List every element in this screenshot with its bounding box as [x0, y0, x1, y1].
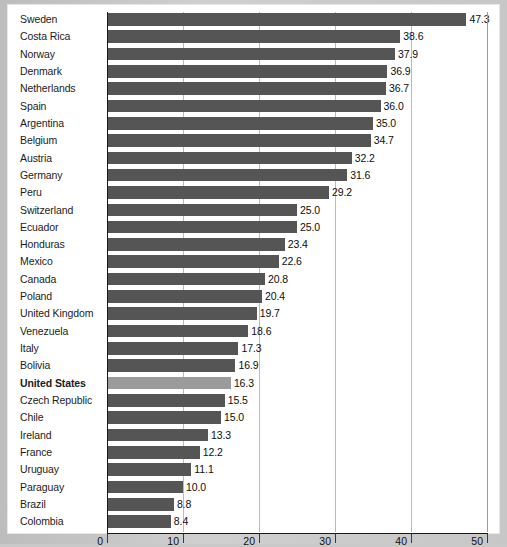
bar-row: Argentina35.0 [8, 116, 499, 133]
bar [107, 463, 191, 476]
bar-value-label: 37.9 [398, 48, 418, 61]
bar [107, 498, 174, 511]
bar-value-label: 8.4 [174, 515, 188, 528]
bar [107, 342, 238, 355]
category-label: Netherlands [20, 82, 105, 95]
category-label: Ireland [20, 429, 105, 442]
bar-value-label: 32.2 [355, 152, 375, 165]
x-axis-tick-label: 50 [445, 535, 483, 547]
category-label: Argentina [20, 117, 105, 130]
category-label: Chile [20, 411, 105, 424]
category-label: Bolivia [20, 359, 105, 372]
x-axis-tick [107, 534, 108, 543]
category-label: Ecuador [20, 221, 105, 234]
category-label: Czech Republic [20, 394, 105, 407]
y-axis-line [107, 12, 108, 534]
bar [107, 394, 225, 407]
bar [107, 515, 171, 528]
bar-row: Denmark36.9 [8, 64, 499, 81]
bar-value-label: 25.0 [300, 204, 320, 217]
bar [107, 204, 297, 217]
category-label: Switzerland [20, 204, 105, 217]
bar-value-label: 13.3 [211, 429, 231, 442]
bar-row: Czech Republic15.5 [8, 393, 499, 410]
bar-value-label: 16.9 [238, 359, 258, 372]
bar-value-label: 15.0 [224, 411, 244, 424]
bar [107, 117, 373, 130]
x-axis-tick-label: 0 [65, 535, 103, 547]
bar-row: Ireland13.3 [8, 428, 499, 445]
category-label: Poland [20, 290, 105, 303]
category-label: Germany [20, 169, 105, 182]
bar-value-label: 10.0 [186, 481, 206, 494]
bar-row: Honduras23.4 [8, 237, 499, 254]
bar-row: France12.2 [8, 445, 499, 462]
bar-value-label: 18.6 [251, 325, 271, 338]
bar [107, 325, 248, 338]
bar-value-label: 15.5 [228, 394, 248, 407]
bar-value-label: 36.7 [389, 82, 409, 95]
bar [107, 186, 329, 199]
category-label: Uruguay [20, 463, 105, 476]
bar-value-label: 12.2 [203, 446, 223, 459]
x-axis-tick [335, 534, 336, 543]
bar-value-label: 20.8 [268, 273, 288, 286]
x-axis-tick [259, 534, 260, 543]
bar-value-label: 16.3 [234, 377, 254, 390]
bar [107, 377, 231, 390]
bar-row: Netherlands36.7 [8, 81, 499, 98]
bar-value-label: 38.6 [403, 30, 423, 43]
bar-chart: Sweden47.3Costa Rica38.6Norway37.9Denmar… [8, 5, 499, 533]
bar-row: United Kingdom19.7 [8, 306, 499, 323]
bar-row: Norway37.9 [8, 47, 499, 64]
bar-value-label: 36.0 [384, 100, 404, 113]
category-label: Paraguay [20, 481, 105, 494]
category-label: United States [20, 377, 105, 390]
bar-row: Switzerland25.0 [8, 203, 499, 220]
bar-row: Uruguay11.1 [8, 462, 499, 479]
bar [107, 100, 381, 113]
bar-value-label: 22.6 [282, 255, 302, 268]
category-label: Canada [20, 273, 105, 286]
bar [107, 307, 257, 320]
bar-row: Poland20.4 [8, 289, 499, 306]
bar [107, 134, 371, 147]
bar-value-label: 25.0 [300, 221, 320, 234]
bar-value-label: 34.7 [374, 134, 394, 147]
bar-value-label: 35.0 [376, 117, 396, 130]
category-label: Sweden [20, 13, 105, 26]
category-label: Belgium [20, 134, 105, 147]
category-label: Colombia [20, 515, 105, 528]
category-label: Norway [20, 48, 105, 61]
category-label: Peru [20, 186, 105, 199]
bar-value-label: 11.1 [194, 463, 213, 476]
bar-row: Bolivia16.9 [8, 358, 499, 375]
bar-row: Austria32.2 [8, 151, 499, 168]
bar-value-label: 17.3 [241, 342, 261, 355]
bar-row: Costa Rica38.6 [8, 29, 499, 46]
bar-row: Peru29.2 [8, 185, 499, 202]
bar [107, 255, 279, 268]
bar-row: Brazil8.8 [8, 497, 499, 514]
x-axis-tick-label: 10 [141, 535, 179, 547]
bar-row: Canada20.8 [8, 272, 499, 289]
bar-row: Venezuela18.6 [8, 324, 499, 341]
bar [107, 273, 265, 286]
bar [107, 411, 221, 424]
bar [107, 359, 235, 372]
bar [107, 152, 352, 165]
bar-value-label: 29.2 [332, 186, 352, 199]
bar-value-label: 19.7 [260, 307, 280, 320]
bar [107, 65, 387, 78]
bar [107, 82, 386, 95]
bar [107, 429, 208, 442]
category-label: Mexico [20, 255, 105, 268]
bar [107, 238, 285, 251]
bar [107, 169, 347, 182]
bar-row: Italy17.3 [8, 341, 499, 358]
bar-value-label: 36.9 [390, 65, 410, 78]
bar [107, 446, 200, 459]
bar-row: Colombia8.4 [8, 514, 499, 531]
category-label: Costa Rica [20, 30, 105, 43]
